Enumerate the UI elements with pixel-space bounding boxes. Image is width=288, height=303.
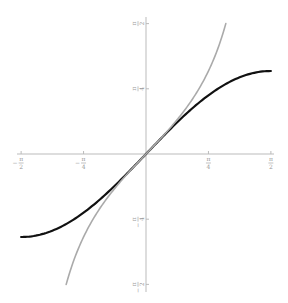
svg-text:−: − (75, 159, 80, 166)
svg-text:−: − (134, 288, 141, 293)
svg-text:π: π (82, 155, 86, 162)
x-tick-label-2: π4 (206, 155, 211, 170)
svg-text:π: π (206, 155, 210, 162)
y-tick-label-0: π2 (130, 21, 145, 26)
svg-text:π: π (130, 217, 137, 221)
svg-text:4: 4 (138, 87, 145, 91)
svg-text:2: 2 (138, 22, 145, 26)
svg-text:2: 2 (269, 163, 273, 170)
svg-text:2: 2 (19, 163, 23, 170)
svg-text:π: π (269, 155, 273, 162)
y-tick-label-3: −π2 (130, 282, 145, 293)
svg-text:π: π (19, 155, 23, 162)
svg-text:−: − (13, 159, 18, 166)
y-tick-label-2: −π4 (130, 217, 145, 228)
svg-text:−: − (134, 223, 141, 228)
svg-text:4: 4 (207, 163, 211, 170)
svg-text:4: 4 (138, 217, 145, 221)
svg-text:π: π (130, 87, 137, 91)
x-tick-label-3: π2 (268, 155, 273, 170)
svg-text:2: 2 (138, 282, 145, 286)
svg-text:4: 4 (82, 163, 86, 170)
x-tick-label-1: −π4 (75, 155, 86, 170)
x-tick-label-0: −π2 (13, 155, 24, 170)
chart-plot: −π2−π4π4π2π2π4−π4−π2 (0, 0, 288, 303)
y-tick-label-1: π4 (130, 86, 145, 91)
svg-text:π: π (130, 22, 137, 26)
svg-text:π: π (130, 282, 137, 286)
